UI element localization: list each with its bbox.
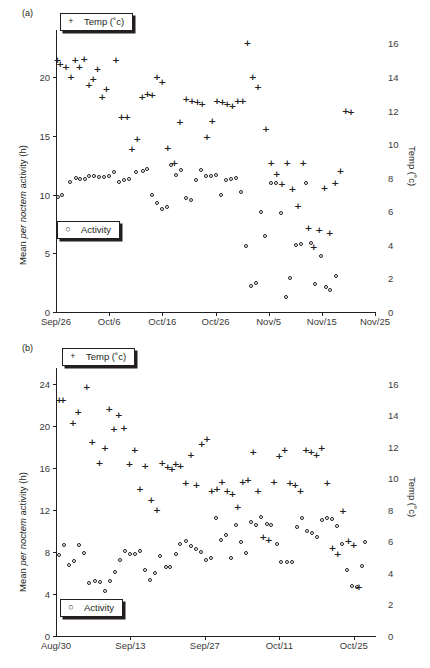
data-point-activity-b xyxy=(158,554,162,558)
data-point-activity-b xyxy=(67,563,71,567)
y-axis-title-right-b: Temp (˚c) xyxy=(407,477,418,517)
data-point-activity-a xyxy=(78,177,82,181)
data-point-activity-a xyxy=(219,193,223,197)
data-point-temp-a: + xyxy=(336,166,344,176)
y-tick-label-right-b: 0 xyxy=(388,631,393,642)
data-point-temp-b: + xyxy=(110,425,118,435)
legend-temp-label-b: Temp (˚c) xyxy=(86,351,126,362)
y-tick-a xyxy=(53,77,56,78)
data-point-temp-a: + xyxy=(305,223,313,233)
data-point-activity-a xyxy=(160,207,164,211)
legend-activity-a[interactable]: ○ Activity xyxy=(57,221,120,239)
data-point-temp-a: + xyxy=(128,144,136,154)
panel-b: (b) + Temp (˚c) ○ Activity Mean per noct… xyxy=(0,334,430,668)
data-point-temp-a: + xyxy=(198,99,206,109)
y-axis-title-b-pre: Mean xyxy=(17,566,28,592)
plot-area-a xyxy=(56,30,375,312)
data-point-activity-a xyxy=(259,210,263,214)
data-point-activity-a xyxy=(299,242,303,246)
plus-marker-icon: + xyxy=(67,17,75,26)
data-point-temp-b: + xyxy=(120,423,128,433)
legend-temp-b[interactable]: + Temp (˚c) xyxy=(62,348,135,366)
data-point-temp-b: + xyxy=(334,549,342,559)
y-axis-title-a-post: activity (h) xyxy=(17,145,28,191)
data-point-activity-a xyxy=(199,168,203,172)
data-point-activity-b xyxy=(300,516,304,520)
data-point-activity-a xyxy=(179,168,183,172)
x-tick-a xyxy=(109,313,110,316)
legend-temp-a[interactable]: + Temp (˚c) xyxy=(60,13,133,31)
data-point-temp-b: + xyxy=(125,459,133,469)
data-point-temp-a: + xyxy=(123,113,131,123)
data-point-temp-b: + xyxy=(83,382,91,392)
x-tick-label-b: Oct/25 xyxy=(340,640,368,651)
data-point-activity-b xyxy=(310,531,314,535)
y-tick-label-right-a: 6 xyxy=(388,206,393,217)
data-point-activity-a xyxy=(269,181,273,185)
y-tick-label-a: 10 xyxy=(28,189,50,200)
x-axis-b xyxy=(56,636,376,637)
data-point-activity-b xyxy=(103,589,107,593)
data-point-activity-b xyxy=(279,560,283,564)
legend-activity-label-a: Activity xyxy=(81,224,111,235)
data-point-activity-a xyxy=(141,169,145,173)
data-point-activity-b xyxy=(87,581,91,585)
x-tick-b xyxy=(130,637,131,640)
data-point-activity-a xyxy=(112,170,116,174)
y-tick-label-right-a: 2 xyxy=(388,273,393,284)
data-point-activity-b xyxy=(335,524,339,528)
open-circle-marker-icon: ○ xyxy=(67,603,75,612)
legend-activity-b[interactable]: ○ Activity xyxy=(60,599,123,617)
y-axis-a xyxy=(56,30,57,313)
data-point-activity-b xyxy=(199,550,203,554)
data-point-activity-a xyxy=(249,284,253,288)
data-point-temp-a: + xyxy=(164,143,172,153)
x-tick-label-b: Sep/13 xyxy=(115,640,145,651)
data-point-activity-b xyxy=(315,535,319,539)
y-tick-label-b: 16 xyxy=(28,462,50,473)
data-point-activity-b xyxy=(153,571,157,575)
data-point-activity-a xyxy=(204,174,208,178)
x-tick-a xyxy=(162,313,163,316)
data-point-temp-a: + xyxy=(347,108,355,118)
data-point-activity-b xyxy=(148,578,152,582)
data-point-activity-b xyxy=(350,584,354,588)
data-point-activity-b xyxy=(265,522,269,526)
data-point-temp-b: + xyxy=(234,502,242,512)
data-point-temp-b: + xyxy=(141,461,149,471)
data-point-temp-a: + xyxy=(310,242,318,252)
y-axis-title-right-a: Temp (˚c) xyxy=(407,146,418,186)
y-axis-title-right-a-label: Temp (˚c) xyxy=(407,146,418,186)
data-point-activity-b xyxy=(138,549,142,553)
x-tick-a xyxy=(322,313,323,316)
data-point-activity-b xyxy=(108,579,112,583)
y-tick-b xyxy=(53,552,56,553)
y-tick-b xyxy=(53,468,56,469)
y-tick-label-a: 20 xyxy=(28,72,50,83)
y-tick-label-b: 8 xyxy=(28,546,50,557)
data-point-activity-a xyxy=(279,211,283,215)
data-point-activity-b xyxy=(363,540,367,544)
data-point-activity-b xyxy=(340,542,344,546)
data-point-activity-a xyxy=(239,190,243,194)
data-point-activity-b xyxy=(244,551,248,555)
data-point-activity-b xyxy=(219,538,223,542)
data-point-activity-b xyxy=(209,556,213,560)
data-point-activity-b xyxy=(254,523,258,527)
data-point-activity-a xyxy=(92,174,96,178)
y-tick-label-right-a: 12 xyxy=(388,105,399,116)
data-point-temp-b: + xyxy=(101,444,109,454)
data-point-temp-b: + xyxy=(88,437,96,447)
data-point-activity-b xyxy=(128,552,132,556)
data-point-activity-a xyxy=(56,195,60,199)
data-point-temp-a: + xyxy=(243,39,251,49)
data-point-activity-a xyxy=(107,174,111,178)
data-point-temp-a: + xyxy=(283,158,291,168)
data-point-temp-b: + xyxy=(74,407,82,417)
y-tick-label-right-b: 10 xyxy=(388,473,399,484)
data-point-temp-b: + xyxy=(131,445,139,455)
data-point-activity-a xyxy=(127,177,131,181)
data-point-activity-b xyxy=(224,533,228,537)
data-point-activity-a xyxy=(263,234,267,238)
data-point-activity-a xyxy=(254,281,258,285)
